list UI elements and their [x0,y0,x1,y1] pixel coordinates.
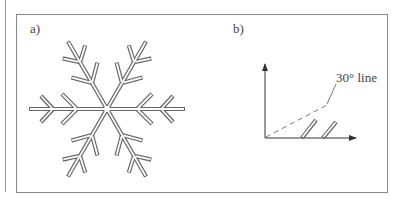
panel-a-label: a) [30,21,40,36]
dashed-30-degree-line [266,105,327,137]
annotation-leader [327,84,336,104]
panel-a: a) [29,21,185,184]
annotation-30-line: 30° line [336,70,377,85]
panel-b: b) 30° line [233,21,377,138]
branch-2 [323,122,336,138]
snowflake-icon [29,34,185,184]
figure-canvas: a) b) 30° line [0,0,403,203]
panel-b-label: b) [233,21,244,36]
branch-1 [302,120,316,138]
